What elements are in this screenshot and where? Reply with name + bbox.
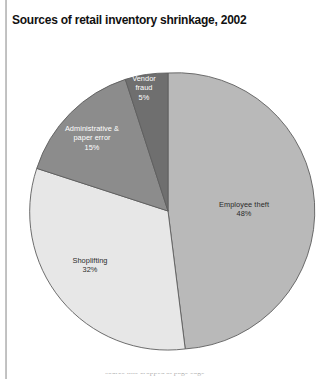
pie-label-shoplifting-value: 32% [44, 265, 136, 274]
pie-label-vendor-fraud-line1: Vendor [113, 74, 175, 83]
pie-chart-plot-area: Employee theft 48% Shoplifting 32% Admin… [0, 0, 325, 379]
pie-chart-svg [0, 0, 325, 379]
bottom-caption-cropped: source line cropped at page edge [0, 373, 325, 379]
pie-label-administrative-paper-error-line2: paper error [40, 133, 144, 142]
pie-label-vendor-fraud: Vendor fraud 5% [113, 74, 175, 102]
pie-chart-figure: Sources of retail inventory shrinkage, 2… [0, 0, 325, 379]
pie-label-employee-theft-text: Employee theft [196, 200, 292, 209]
pie-label-administrative-paper-error: Administrative & paper error 15% [40, 124, 144, 152]
pie-label-employee-theft: Employee theft 48% [196, 200, 292, 219]
pie-label-shoplifting-text: Shoplifting [44, 256, 136, 265]
pie-label-shoplifting: Shoplifting 32% [44, 256, 136, 275]
bottom-caption-text: source line cropped at page edge [105, 373, 204, 377]
pie-label-vendor-fraud-value: 5% [113, 93, 175, 102]
pie-label-administrative-paper-error-value: 15% [40, 143, 144, 152]
pie-label-vendor-fraud-line2: fraud [113, 83, 175, 92]
pie-label-administrative-paper-error-line1: Administrative & [40, 124, 144, 133]
pie-label-employee-theft-value: 48% [196, 209, 292, 218]
